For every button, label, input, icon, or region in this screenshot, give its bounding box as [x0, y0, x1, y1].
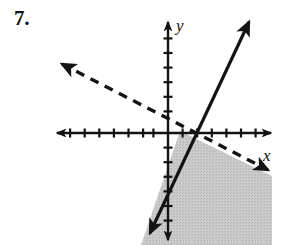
coordinate-plane: y x	[0, 0, 293, 245]
dashed-boundary-line	[62, 64, 268, 170]
x-axis-label: x	[262, 146, 271, 165]
y-axis-label: y	[174, 16, 184, 35]
shaded-solution-region	[141, 131, 272, 245]
x-axis	[57, 129, 271, 138]
graph-figure: 7.	[0, 0, 293, 245]
